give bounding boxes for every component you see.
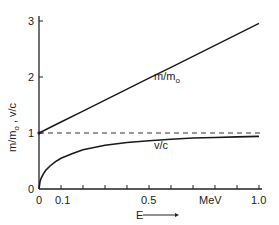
series-v-c-line [39,136,259,189]
y-tick-label-2: 2 [28,71,34,83]
m-m0-annotation: m/mo [154,70,180,85]
x-tick-label-0.1: 0.1 [55,194,70,206]
x-axis-label: E [136,209,143,221]
y-axis-label: m/mo , v/c [6,102,21,152]
arrow-right-icon [143,213,179,217]
x-tick-label-1.0: 1.0 [251,194,266,206]
series-m-m0-line [39,23,259,133]
x-unit-label: MeV [199,194,222,206]
v-c-annotation: v/c [154,139,169,151]
chart: 3 2 1 0 0 0.1 0.5 MeV 1.0 E m/mo , v/c m… [0,0,279,225]
origin-point [37,131,40,134]
y-tick-label-3: 3 [28,15,34,27]
y-tick-label-0: 0 [28,183,34,195]
x-tick-label-0: 0 [36,194,42,206]
x-tick-label-0.5: 0.5 [141,194,156,206]
y-tick-label-1: 1 [28,127,34,139]
